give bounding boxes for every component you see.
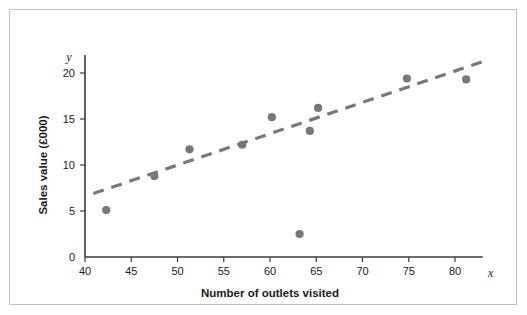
data-point-marker	[268, 113, 276, 121]
y-tick-label: 0	[69, 251, 75, 263]
y-tick-labels: 05101520	[63, 67, 75, 263]
x-tick-label: 40	[79, 265, 91, 277]
x-tick-label: 50	[171, 265, 183, 277]
data-point-marker	[403, 74, 411, 82]
x-tick-label: 80	[449, 265, 461, 277]
x-tick-label: 70	[356, 265, 368, 277]
axis-labels: yxNumber of outlets visitedSales value (…	[37, 50, 494, 299]
y-axis-letter: y	[65, 50, 72, 64]
axes	[85, 55, 483, 257]
x-tick-label: 55	[218, 265, 230, 277]
chart-figure: 404550556065707580 05101520 yxNumber of …	[0, 0, 527, 315]
data-point-marker	[102, 206, 110, 214]
data-point-marker	[306, 127, 314, 135]
data-points	[102, 74, 470, 238]
x-axis-title: Number of outlets visited	[201, 287, 339, 299]
data-point-marker	[150, 172, 158, 180]
tick-marks	[80, 73, 455, 262]
data-point-marker	[296, 230, 304, 238]
x-tick-label: 65	[310, 265, 322, 277]
data-point-marker	[185, 145, 193, 153]
data-point-marker	[314, 104, 322, 112]
x-tick-label: 60	[264, 265, 276, 277]
data-point-marker	[462, 75, 470, 83]
y-axis-title: Sales value (£000)	[37, 115, 49, 214]
x-tick-label: 45	[125, 265, 137, 277]
x-tick-labels: 404550556065707580	[79, 265, 461, 277]
data-point-marker	[238, 141, 246, 149]
y-tick-label: 20	[63, 67, 75, 79]
scatter-plot: 404550556065707580 05101520 yxNumber of …	[0, 0, 527, 315]
y-tick-label: 15	[63, 113, 75, 125]
y-tick-label: 5	[69, 205, 75, 217]
x-axis-letter: x	[487, 266, 494, 280]
y-tick-label: 10	[63, 159, 75, 171]
x-tick-label: 75	[403, 265, 415, 277]
